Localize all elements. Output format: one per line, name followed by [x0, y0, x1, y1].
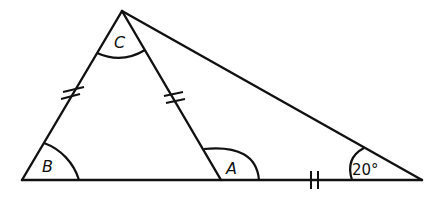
label-angle-c: C	[114, 33, 126, 52]
geometry-diagram: C B A 20°	[0, 0, 444, 198]
label-angle-20: 20°	[352, 161, 379, 179]
equal-marks-ca	[164, 92, 185, 103]
label-angle-b: B	[42, 157, 53, 176]
label-angle-a: A	[225, 159, 237, 178]
side-ca	[122, 11, 221, 180]
